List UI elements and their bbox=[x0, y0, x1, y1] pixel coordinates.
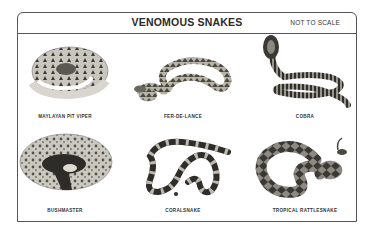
snake-card-bushmaster: BUSHMASTER bbox=[10, 130, 120, 225]
snake-card-cobra: COBRA bbox=[250, 33, 360, 128]
bushmaster-image bbox=[10, 130, 120, 210]
snake-label: TROPICAL RATTLESNAKE bbox=[250, 208, 360, 213]
fer-de-lance-image bbox=[128, 33, 238, 113]
snake-label: CORALSNAKE bbox=[128, 208, 238, 213]
pit-viper-image bbox=[10, 33, 120, 113]
cobra-image bbox=[250, 33, 360, 113]
coralsnake-image bbox=[128, 130, 238, 210]
chart-header: VENOMOUS SNAKES NOT TO SCALE bbox=[18, 13, 356, 34]
snake-card-pit-viper: MAYLAYAN PIT VIPER bbox=[10, 33, 120, 128]
snake-card-coralsnake: CORALSNAKE bbox=[128, 130, 238, 225]
snake-card-fer-de-lance: FER-DE-LANCE bbox=[128, 33, 238, 128]
snake-label: COBRA bbox=[250, 114, 360, 119]
snake-card-tropical-rattlesnake: TROPICAL RATTLESNAKE bbox=[250, 130, 360, 225]
snake-label: FER-DE-LANCE bbox=[128, 114, 238, 119]
snake-label: BUSHMASTER bbox=[10, 208, 120, 213]
snake-label: MAYLAYAN PIT VIPER bbox=[10, 114, 120, 119]
scale-note: NOT TO SCALE bbox=[290, 19, 340, 26]
tropical-rattlesnake-image bbox=[250, 130, 360, 210]
